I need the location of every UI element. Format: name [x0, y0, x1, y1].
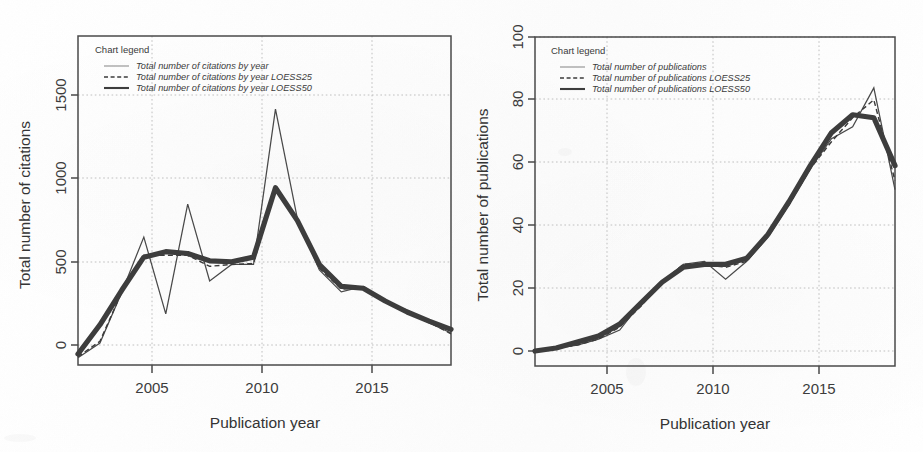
- chart-panel-citations: 0 500 1000 1500 2005 2010 2015 Total num…: [0, 0, 470, 452]
- publications-y-tick-marks: [528, 37, 535, 351]
- publications-legend-label-loess25: Total number of publications LOESS25: [592, 73, 751, 83]
- citations-ytick-0: 0: [52, 341, 69, 349]
- citations-xlabel: Publication year: [210, 414, 320, 431]
- citations-legend-title: Chart legend: [95, 44, 149, 55]
- publications-legend-title: Chart legend: [551, 45, 605, 56]
- citations-series-raw: [78, 109, 451, 358]
- publications-series-loess50: [535, 115, 895, 351]
- citations-ytick-1500: 1500: [52, 78, 69, 111]
- citations-ytick-500: 500: [52, 249, 69, 274]
- publications-plot: 0 20 40 60 80 100 2005 2010 2015 Total n…: [462, 0, 923, 452]
- publications-series-loess25: [535, 100, 895, 351]
- publications-ytick-40: 40: [509, 217, 526, 234]
- publications-xtick-2015: 2015: [802, 380, 835, 397]
- publications-ytick-60: 60: [509, 154, 526, 171]
- citations-legend-label-loess50: Total number of citations by year LOESS5…: [136, 83, 313, 93]
- publications-series-group: [535, 88, 895, 351]
- citations-legend: Chart legend Total number of citations b…: [95, 44, 313, 93]
- citations-ytick-1000: 1000: [52, 161, 69, 194]
- publications-xlabel: Publication year: [660, 415, 770, 432]
- citations-plot: 0 500 1000 1500 2005 2010 2015 Total num…: [0, 0, 470, 452]
- citations-y-tick-marks: [71, 95, 78, 345]
- citations-xtick-2005: 2005: [135, 379, 168, 396]
- publications-ytick-80: 80: [509, 91, 526, 108]
- citations-legend-label-raw: Total number of citations by year: [136, 61, 269, 71]
- citations-xtick-2015: 2015: [355, 379, 388, 396]
- publications-ytick-0: 0: [509, 347, 526, 355]
- publications-xtick-2005: 2005: [590, 380, 623, 397]
- citations-series-group: [78, 109, 451, 358]
- publications-legend: Chart legend Total number of publication…: [551, 45, 751, 94]
- publications-ytick-20: 20: [509, 280, 526, 297]
- citations-x-tick-marks: [152, 365, 372, 373]
- publications-xtick-2010: 2010: [696, 380, 729, 397]
- citations-ylabel: Total number of citations: [16, 121, 33, 289]
- publications-legend-label-raw: Total number of publications: [592, 62, 707, 72]
- publications-legend-label-loess50: Total number of publications LOESS50: [592, 84, 751, 94]
- publications-x-tick-marks: [607, 366, 819, 374]
- publications-ylabel: Total number of publications: [474, 108, 491, 301]
- citations-legend-label-loess25: Total number of citations by year LOESS2…: [136, 72, 313, 82]
- publications-ytick-100: 100: [509, 24, 526, 49]
- citations-series-loess50: [78, 188, 451, 354]
- citations-xtick-2010: 2010: [245, 379, 278, 396]
- chart-panel-publications: 0 20 40 60 80 100 2005 2010 2015 Total n…: [462, 0, 923, 452]
